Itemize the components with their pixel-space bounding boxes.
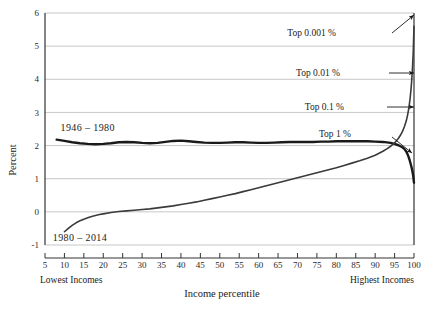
annotation-label: Top 0.001 % — [287, 28, 336, 38]
chart-root: -10123456 510152025303540455055606570758… — [0, 0, 437, 313]
x-axis-title: Income percentile — [184, 288, 260, 299]
x-tick-label: 25 — [118, 260, 128, 270]
income-percentile-line-chart: -10123456 510152025303540455055606570758… — [0, 0, 437, 313]
x-tick-label: 60 — [254, 260, 264, 270]
y-tick-label: 3 — [35, 108, 40, 118]
x-tick-label: 5 — [43, 260, 48, 270]
x-tick-label: 95 — [390, 260, 400, 270]
y-tick-label: -1 — [32, 240, 40, 250]
x-tick-label: 45 — [196, 260, 206, 270]
x-tick-label: 55 — [235, 260, 245, 270]
x-axis-right-end-label: Highest Incomes — [350, 275, 414, 285]
x-tick-label: 100 — [407, 260, 421, 270]
x-axis-left-end-label: Lowest Incomes — [40, 275, 103, 285]
y-tick-label: 6 — [35, 8, 40, 18]
x-tick-label: 50 — [215, 260, 225, 270]
x-tick-label: 90 — [371, 260, 381, 270]
x-tick-label: 80 — [332, 260, 342, 270]
series-label: 1980 – 2014 — [53, 232, 107, 243]
x-tick-label: 10 — [60, 260, 70, 270]
x-tick-label: 85 — [351, 260, 361, 270]
y-axis-title: Percent — [7, 144, 18, 176]
y-tick-label: 4 — [35, 74, 40, 84]
y-tick-label: 1 — [35, 174, 40, 184]
x-tick-label: 20 — [99, 260, 109, 270]
y-tick-label: 2 — [35, 141, 40, 151]
x-tick-label: 40 — [176, 260, 186, 270]
x-tick-label: 65 — [274, 260, 284, 270]
x-tick-label: 15 — [79, 260, 89, 270]
series-label: 1946 – 1980 — [61, 122, 115, 133]
x-tick-label: 70 — [293, 260, 303, 270]
y-tick-label: 0 — [35, 207, 40, 217]
x-tick-label: 75 — [312, 260, 322, 270]
annotation-label: Top 0.1 % — [305, 102, 344, 112]
y-tick-label: 5 — [35, 41, 40, 51]
x-tick-label: 30 — [138, 260, 148, 270]
annotation-label: Top 0.01 % — [296, 68, 340, 78]
x-tick-label: 35 — [157, 260, 167, 270]
annotation-label: Top 1 % — [319, 129, 351, 139]
